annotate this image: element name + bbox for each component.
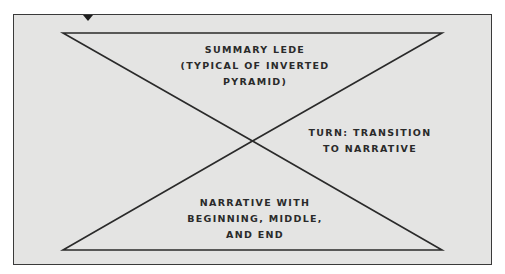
summary-lede-label: Summary lede (typical of inverted pyrami… [150,42,360,90]
down-triangle-marker-icon [83,15,93,21]
narrative-label: Narrative with beginning, middle, and en… [150,195,360,243]
turn-transition-label: Turn: transition to narrative [290,125,450,157]
